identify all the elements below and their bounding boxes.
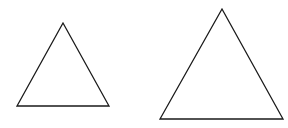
diagram-canvas xyxy=(0,0,288,128)
small-triangle xyxy=(17,23,109,106)
large-triangle xyxy=(160,9,283,119)
